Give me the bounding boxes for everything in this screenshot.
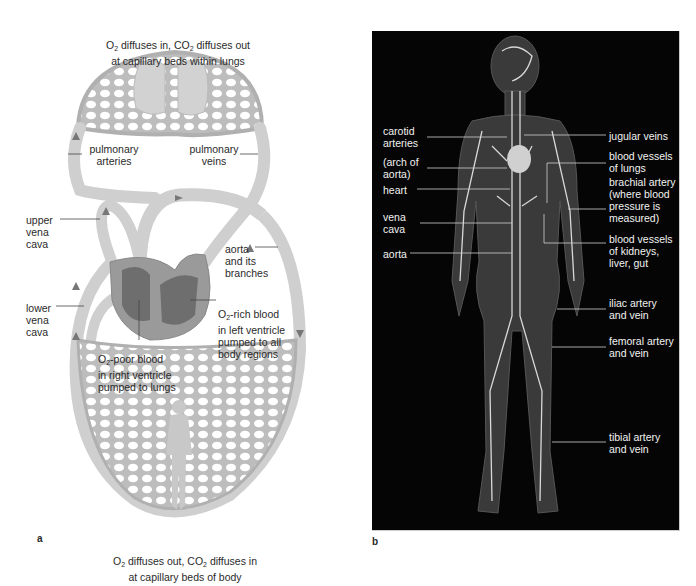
- label-aorta: aorta: [383, 248, 407, 260]
- panel-letter-a: a: [37, 533, 43, 544]
- panel-letter-b: b: [372, 536, 378, 547]
- label-pulmonary-arteries: pulmonary arteries: [86, 143, 142, 167]
- left-lung: [134, 61, 165, 115]
- circulation-loop-illustration: [0, 0, 360, 586]
- label-aorta-branches: aorta and its branches: [225, 243, 268, 279]
- label-o2-rich-blood: O2-rich blood in left ventricle pumped t…: [218, 296, 285, 360]
- label-tibial-artery: tibial artery and vein: [609, 431, 660, 455]
- label-lower-vena-cava: lower vena cava: [26, 302, 51, 338]
- label-heart: heart: [383, 184, 407, 196]
- label-carotid-arteries: carotid arteries: [383, 125, 418, 149]
- label-arch-of-aorta: (arch of aorta): [383, 156, 419, 180]
- label-brachial-artery: brachial artery (where blood pressure is…: [609, 176, 676, 224]
- label-blood-vessels-kidneys: blood vessels of kidneys, liver, gut: [609, 233, 673, 269]
- label-iliac-artery: iliac artery and vein: [609, 297, 657, 321]
- body-figure: [452, 36, 584, 513]
- label-blood-vessels-lungs: blood vessels of lungs: [609, 150, 673, 174]
- human-vascular-system-panel: carotid arteries (arch of aorta) heart v…: [372, 31, 680, 531]
- label-jugular-veins: jugular veins: [609, 130, 668, 142]
- body-diffusion-caption: O2 diffuses out, CO2 diffuses inat capil…: [90, 543, 280, 583]
- label-o2-poor-blood: O2-poor blood in right ventricle pumped …: [98, 341, 176, 393]
- lung-diffusion-caption: O2 diffuses in, CO2 diffuses outat capil…: [78, 27, 278, 67]
- pulmonary-systemic-circuit-diagram: O2 diffuses in, CO2 diffuses outat capil…: [0, 0, 360, 586]
- heart-shape: [507, 145, 531, 173]
- human-body-vessels-illustration: [372, 31, 679, 530]
- label-upper-vena-cava: upper vena cava: [26, 214, 53, 250]
- heart-illustration: [110, 254, 210, 340]
- label-vena-cava: vena cava: [383, 211, 406, 235]
- label-femoral-artery: femoral artery and vein: [609, 335, 674, 359]
- label-pulmonary-veins: pulmonary veins: [186, 143, 242, 167]
- right-lung: [178, 60, 208, 115]
